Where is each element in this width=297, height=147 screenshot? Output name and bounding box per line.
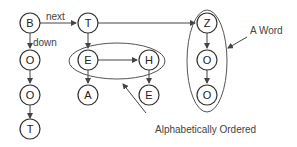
node-e: E	[139, 85, 159, 105]
svg-text:E: E	[84, 54, 91, 66]
svg-text:O: O	[26, 54, 35, 66]
svg-text:Z: Z	[204, 17, 211, 29]
svg-text:T: T	[85, 17, 92, 29]
node-h: H	[139, 50, 159, 70]
node-e: E	[78, 50, 98, 70]
node-o: O	[197, 85, 217, 105]
ordered-annotation: Alphabetically Ordered	[155, 124, 256, 135]
svg-text:H: H	[145, 54, 153, 66]
node-t: T	[78, 13, 98, 33]
node-z: Z	[197, 13, 217, 33]
node-o: O	[197, 50, 217, 70]
svg-text:E: E	[145, 89, 152, 101]
trie-diagram: next down A Word Alphabetically Ordered …	[0, 0, 297, 147]
node-o: O	[20, 85, 40, 105]
svg-text:O: O	[203, 89, 212, 101]
svg-text:T: T	[27, 123, 34, 135]
node-o: O	[20, 50, 40, 70]
svg-text:O: O	[26, 89, 35, 101]
svg-text:A: A	[84, 89, 92, 101]
node-t: T	[20, 119, 40, 139]
word-pointer-arrow	[228, 37, 247, 48]
node-b: B	[20, 13, 40, 33]
next-label: next	[46, 11, 65, 22]
word-annotation: A Word	[250, 25, 283, 36]
svg-text:B: B	[26, 17, 33, 29]
down-label: down	[33, 37, 57, 48]
svg-text:O: O	[203, 54, 212, 66]
node-a: A	[78, 85, 98, 105]
